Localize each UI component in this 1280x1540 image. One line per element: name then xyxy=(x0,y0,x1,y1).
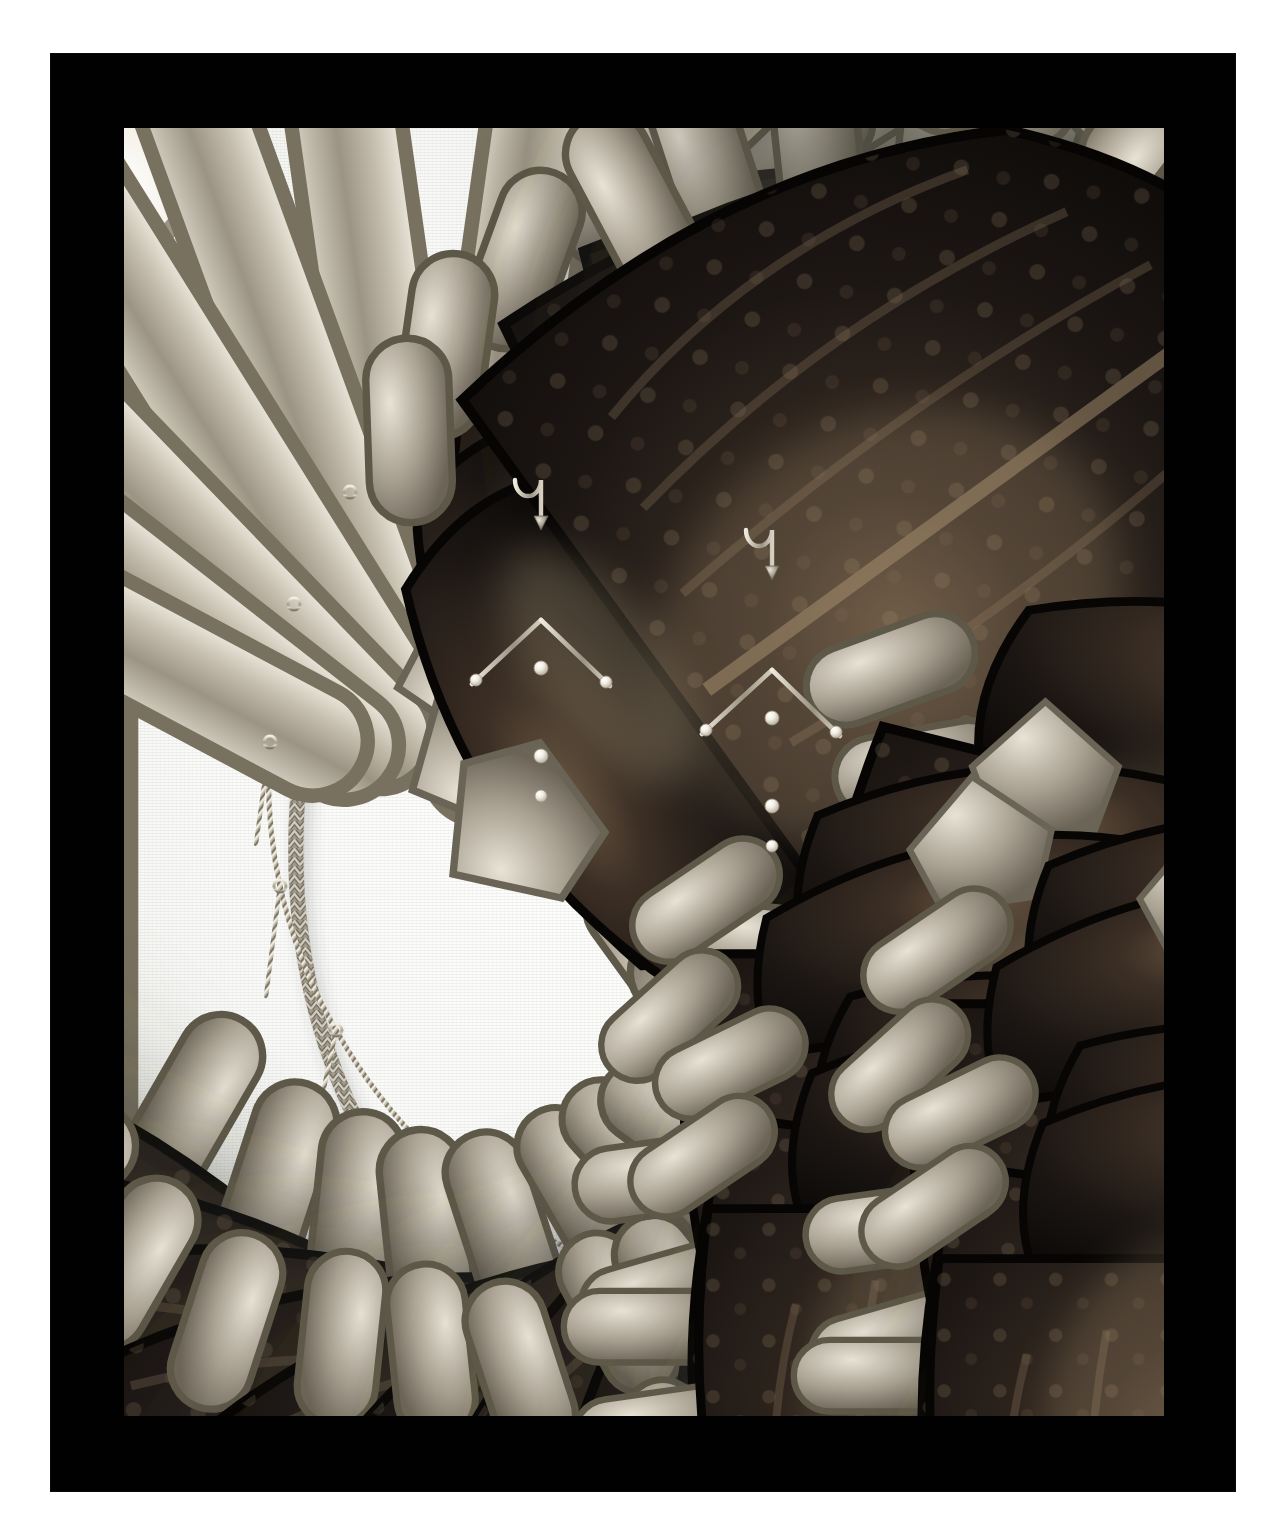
artwork-medium: Gold woven chain set with iridescent bee… xyxy=(326,0,795,17)
photographic-mount xyxy=(51,54,1235,1491)
necklace-pearl-pin-count: 21 xyxy=(815,18,833,35)
necklace-beetle-count: 22 xyxy=(793,18,811,35)
necklace-shape: inverted teardrop / pear outline xyxy=(0,0,1229,35)
backdrop-window xyxy=(124,128,1164,1416)
jewellery-stage xyxy=(124,128,1164,1416)
necklace-chain-style: flat woven herringbone chain xyxy=(324,18,529,35)
artwork-title: Scarab beetle necklace and pendant earri… xyxy=(0,0,322,17)
necklace-clasp-label: bar clasp at top centre xyxy=(161,18,319,35)
artwork-presentation: Black photographic mount with white line… xyxy=(800,0,1168,17)
beetles-total: 30 xyxy=(837,18,855,35)
necklace-centre-drop-label: pearl-tipped bar drop at lowest point xyxy=(533,18,788,35)
earring-beetles-total: 8 xyxy=(859,18,868,35)
